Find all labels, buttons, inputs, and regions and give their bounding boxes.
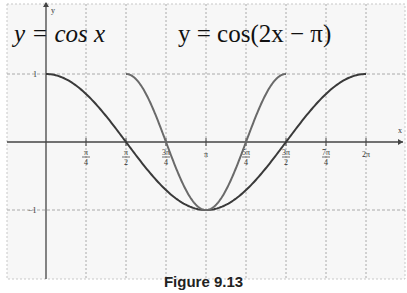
x-tick-denominator: 4 [84, 158, 88, 167]
x-tick-label: π [204, 150, 208, 159]
y-axis-label: y [51, 6, 55, 15]
x-tick-numerator: 7π [322, 148, 330, 157]
equation-cos-2x-minus-pi: y = cos(2x − π) [178, 20, 331, 48]
x-tick-denominator: 4 [324, 158, 328, 167]
x-axis-label: x [398, 126, 402, 135]
y-tick-minus-1: −1 [28, 206, 37, 215]
x-tick-denominator: 4 [244, 158, 248, 167]
x-tick-denominator: 2 [284, 158, 288, 167]
x-tick-numerator: π [124, 148, 128, 157]
x-tick-numerator: π [84, 148, 88, 157]
figure-caption: Figure 9.13 [0, 273, 407, 290]
x-tick-denominator: 2 [124, 158, 128, 167]
x-tick-denominator: 4 [164, 158, 168, 167]
equation-cos-x: y = cos x [11, 20, 105, 47]
cosine-chart: xy1−1π4π23π4π5π43π27π42πy = cos xy = cos… [0, 0, 407, 293]
x-tick-label: 2π [362, 150, 370, 159]
x-tick-numerator: 3π [282, 148, 290, 157]
y-tick-1: 1 [33, 70, 37, 79]
